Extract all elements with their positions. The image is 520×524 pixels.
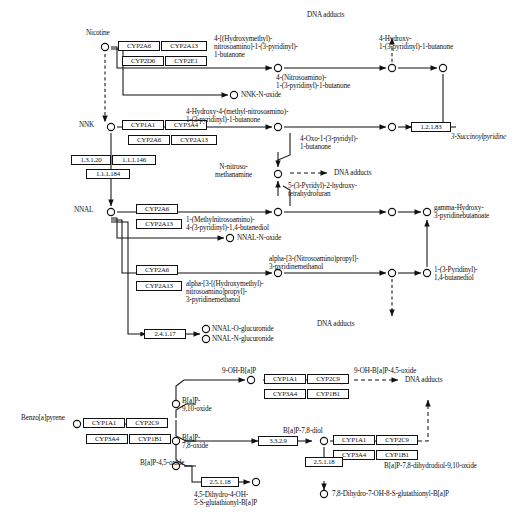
enzyme-box-cyp2c9-diol[interactable]: CYP2C9	[376, 435, 418, 445]
node-nitrosoamino-butanone	[388, 64, 395, 71]
label-succinoylpyridine: 3-Succinoylpyridine	[451, 133, 506, 141]
enzyme-box-cyp1b1-9ohbap[interactable]: CYP1B1	[307, 389, 349, 399]
enzyme-box-ec-2-5-1-18-b[interactable]: 2.5.1.18	[305, 457, 343, 467]
label-dna-adducts-top: DNA adducts	[307, 11, 344, 19]
enzyme-box-cyp2a13-nnal-1[interactable]: CYP2A13	[136, 219, 182, 229]
node-bap-9-10-oxide	[172, 400, 179, 407]
label-hydroxy-pyridinyl-butanone: 4-Hydroxy- 1-(3-pyridinyl)-1-butanone	[379, 35, 453, 51]
node-hydroxy-pyridinyl-butanone	[439, 64, 446, 71]
edge-oxo-curve	[278, 133, 290, 165]
enzyme-box-ec-3-3-2-9[interactable]: 3.3.2.9	[258, 436, 298, 446]
label-bap-4-5-oxide: B[a]P-4,5-oxide	[140, 459, 184, 467]
enzyme-box-cyp2a13-nicotine[interactable]: CYP2A13	[161, 41, 207, 51]
label-gamma-hydroxy-pyridinebutanoate: gamma-Hydroxy- 3-pyridinebutanoate	[434, 204, 489, 220]
enzyme-box-cyp3a4-9ohbap[interactable]: CYP3A4	[264, 389, 306, 399]
enzyme-box-cyp2a6-nnk[interactable]: CYP2A6	[128, 135, 170, 145]
label-nnal-o-glucuronide: NNAL-O-glucuronide	[212, 325, 274, 333]
label-nitrosoamino-butanone: 4-(Nitrosoamino)- 1-(3-pyridinyl)-1-buta…	[276, 74, 350, 90]
label-9-oh-bap: 9-OH-B[a]P	[222, 367, 256, 375]
label-hydroxy-methyl-nitrosoamino-butanone: 4-Hydroxy-4-(methyl-nitrosoamino)- 1-(3-…	[186, 108, 288, 124]
label-dihydro-oh-glutathionyl: 4,5-Dihydro-4-OH- 5-S-glutathionyl-B[a]P	[194, 491, 257, 507]
enzyme-box-ec-2-5-1-18-a[interactable]: 2.5.1.18	[201, 477, 239, 487]
label-benzo-a-pyrene: Benzo[a]pyrene	[21, 414, 65, 422]
node-pyridinyl-butanediol	[423, 269, 430, 276]
label-dna-adducts-bap: DNA adducts	[405, 376, 442, 384]
node-nnal-o-glucuronide	[202, 325, 209, 332]
label-methylnitrosoamino-butanediol: 1-(Methylnitrosoamino)- 4-(3-pyridinyl)-…	[186, 216, 269, 232]
enzyme-box-ec-1-1-1-146[interactable]: 1.1.1.146	[112, 155, 156, 165]
enzyme-box-cyp1a1-diol[interactable]: CYP1A1	[333, 435, 375, 445]
node-dihydro-oh-glutathionyl	[252, 478, 259, 485]
label-pyridyl-hydroxy-thf: 5-(3-Pyridyl)-2-hydroxy- tetrahydrofuran	[288, 182, 357, 198]
node-nnk-n-oxide	[230, 91, 237, 98]
enzyme-box-ec-2-4-1-17[interactable]: 2.4.1.17	[144, 329, 186, 339]
enzyme-box-cyp2a13-nnal-2[interactable]: CYP2A13	[136, 281, 182, 291]
node-alpha-nitrosoamino-propyl	[388, 269, 395, 276]
enzyme-box-cyp3a4-bap[interactable]: CYP3A4	[86, 434, 128, 444]
edge-nnal-to-glucuronide	[111, 222, 146, 334]
node-hydroxymethyl-nitrosoamino	[274, 64, 281, 71]
enzyme-box-ec-1-1-1-184[interactable]: 1.1.1.184	[86, 169, 130, 179]
label-hydroxymethyl-nitrosoamino-butanone: 4-[(Hydroxymethyl)- nitrosoamino]-1-(3-p…	[214, 35, 298, 60]
node-oxo-pyridyl-butanone	[388, 123, 395, 130]
node-9-oh-bap	[247, 376, 254, 383]
node-n-nitroso-methanamine	[274, 170, 281, 177]
node-hydroxy-methyl-nitrosoamino	[274, 123, 281, 130]
label-9-oh-bap-4-5-oxide: 9-OH-B[a]P-4,5-oxide	[354, 367, 416, 375]
enzyme-box-cyp2a6-nnal-1[interactable]: CYP2A6	[136, 204, 178, 214]
enzyme-box-cyp1a1-bap[interactable]: CYP1A1	[83, 418, 125, 428]
enzyme-box-ec-1-3-1-20[interactable]: 1.3.1.20	[71, 155, 111, 165]
label-nnal-n-glucuronide: NNAL-N-glucuronide	[212, 335, 274, 343]
enzyme-box-cyp1b1-bap[interactable]: CYP1B1	[129, 434, 171, 444]
node-pyridyl-hydroxy-thf	[388, 208, 395, 215]
label-bap-dihydrodiol-oxide: B[a]P-7,8-dihydrodiol-9,10-oxide	[384, 462, 477, 470]
label-oxo-pyridyl-butanone: 4-Oxo-1-(3-pyridyl)- 1-butanone	[300, 135, 358, 151]
label-bap-9-10-oxide: B[a]P- 9,10-oxide	[182, 397, 211, 413]
enzyme-box-cyp2a13-nnk[interactable]: CYP2A13	[171, 135, 217, 145]
node-nnal	[107, 208, 114, 215]
edge-45-to-gst	[184, 466, 202, 482]
label-bap-7-8-oxide: B[a]P- 7,8-oxide	[182, 434, 208, 450]
node-nnk	[107, 123, 114, 130]
enzyme-box-cyp2c9-9ohbap[interactable]: CYP2C9	[307, 374, 349, 384]
label-alpha-nitrosoamino-propyl: alpha-[3-(Nitrosoamino)propyl]- 3-pyridi…	[269, 255, 359, 271]
label-n-nitroso-methanamine: N-nitroso- methanamine	[215, 163, 252, 179]
label-dna-adducts-bottom: DNA adducts	[317, 320, 354, 328]
node-nnal-n-glucuronide	[202, 335, 209, 342]
label-nnal-n-oxide: NNAL-N-oxide	[237, 234, 281, 242]
enzyme-box-cyp2d6-nicotine[interactable]: CYP2D6	[122, 56, 164, 66]
enzyme-box-cyp1a1-9ohbap[interactable]: CYP1A1	[264, 374, 306, 384]
enzyme-box-cyp1a1-nnk[interactable]: CYP1A1	[122, 120, 164, 130]
enzyme-box-cyp2a6-nnal-2[interactable]: CYP2A6	[136, 265, 178, 275]
enzyme-box-cyp2a6-nicotine[interactable]: CYP2A6	[118, 41, 160, 51]
label-nicotine: Nicotine	[86, 29, 110, 37]
enzyme-box-cyp2c9-bap[interactable]: CYP2C9	[126, 418, 168, 428]
label-nnal: NNAL	[74, 206, 93, 214]
label-pyridinyl-butanediol: 1-(3-Pyridinyl)- 1,4-butanediol	[434, 266, 478, 282]
label-nnk-n-oxide: NNK-N-oxide	[241, 91, 281, 99]
label-alpha-hydroxymethyl-propyl: alpha-[3-[(Hydroxymethyl)- nitrosoamino]…	[186, 280, 264, 305]
node-dihydro-7oh-glutathionyl	[320, 490, 327, 497]
node-methylnitrosoamino-butanediol	[274, 208, 281, 215]
node-bap-7-8-diol	[320, 437, 327, 444]
node-bap-7-8-oxide	[172, 437, 179, 444]
node-nnal-n-oxide	[226, 234, 233, 241]
node-benzo-a-pyrene	[73, 420, 80, 427]
label-dna-adducts-mid: DNA adducts	[334, 169, 371, 177]
node-gamma-hydroxy-pyridinebutanoate	[423, 208, 430, 215]
node-nicotine	[101, 43, 108, 50]
label-bap-7-8-diol: B[a]P-7,8-diol	[283, 427, 323, 435]
label-nnk: NNK	[79, 121, 94, 129]
enzyme-box-cyp1b1-diol[interactable]: CYP1B1	[376, 450, 418, 460]
enzyme-box-ec-1-2-1-83[interactable]: 1.2.1.83	[411, 122, 451, 132]
pathway-diagram-canvas: CYP2A6 CYP2A13 CYP2D6 CYP2E1 CYP1A1 CYP3…	[0, 0, 520, 524]
enzyme-box-cyp2e1-nicotine[interactable]: CYP2E1	[165, 56, 207, 66]
label-dihydro-7oh-glutathionyl: 7,8-Dihydro-7-OH-8-S-glutathionyl-B[a]P	[332, 490, 449, 498]
